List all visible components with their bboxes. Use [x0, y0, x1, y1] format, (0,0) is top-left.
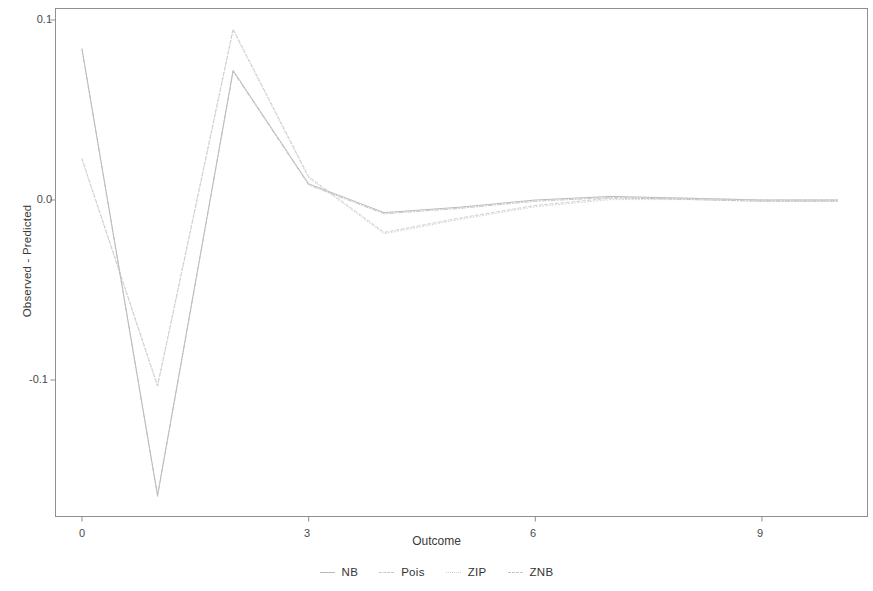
legend-key-nb-icon [320, 572, 335, 573]
series-line-nb [82, 49, 838, 495]
legend-label-zip: ZIP [468, 566, 487, 578]
legend-key-pois-icon [379, 572, 394, 573]
legend-key-znb-icon [508, 572, 523, 573]
legend-label-nb: NB [342, 566, 359, 578]
series-group [82, 29, 838, 496]
plot-area [0, 0, 873, 591]
series-line-znb [82, 50, 838, 496]
legend-item-znb[interactable]: ZNB [508, 566, 554, 578]
legend-item-zip[interactable]: ZIP [446, 566, 487, 578]
legend-item-pois[interactable]: Pois [379, 566, 425, 578]
y-axis-title: Observed - Predicted [21, 151, 33, 371]
x-axis-title: Outcome [0, 534, 873, 548]
chart-legend: NB Pois ZIP ZNB [0, 566, 873, 578]
tick-marks [51, 20, 762, 522]
legend-label-pois: Pois [401, 566, 425, 578]
chart-figure: Observed - Predicted 0.1 0.0 -0.1 0 3 6 … [0, 0, 873, 591]
legend-key-zip-icon [446, 572, 461, 573]
y-tick-label-2: -0.1 [2, 373, 48, 385]
panel-border [56, 9, 868, 517]
y-tick-label-1: 0.0 [6, 193, 52, 205]
legend-label-znb: ZNB [530, 566, 554, 578]
y-tick-label-0: 0.1 [6, 13, 52, 25]
legend-item-nb[interactable]: NB [320, 566, 359, 578]
